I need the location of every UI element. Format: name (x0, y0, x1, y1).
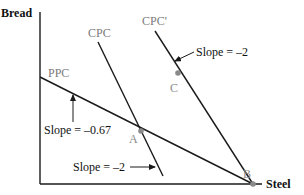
slope-ppc-annotation: Slope = –0.67 (44, 123, 111, 137)
point-c-label: C (170, 81, 178, 95)
point-b (250, 181, 256, 187)
trade-diagram: Bread Steel PPC CPC CPC' A C B Slope = –… (0, 0, 304, 195)
y-axis-label: Bread (1, 6, 32, 20)
point-a (138, 128, 144, 134)
x-axis-label: Steel (266, 177, 291, 191)
slope-cpc-prime-annotation: Slope = –2 (196, 45, 248, 59)
slope-cpc-prime-arrow (175, 52, 194, 61)
cpc-label: CPC (88, 26, 111, 40)
point-a-label: A (129, 132, 138, 146)
ppc-label: PPC (48, 66, 69, 80)
point-b-label: B (243, 167, 251, 181)
cpc-prime-label: CPC' (142, 14, 167, 28)
cpc-line (98, 42, 163, 176)
slope-cpc-annotation: Slope = –2 (73, 160, 125, 174)
point-c (175, 70, 181, 76)
